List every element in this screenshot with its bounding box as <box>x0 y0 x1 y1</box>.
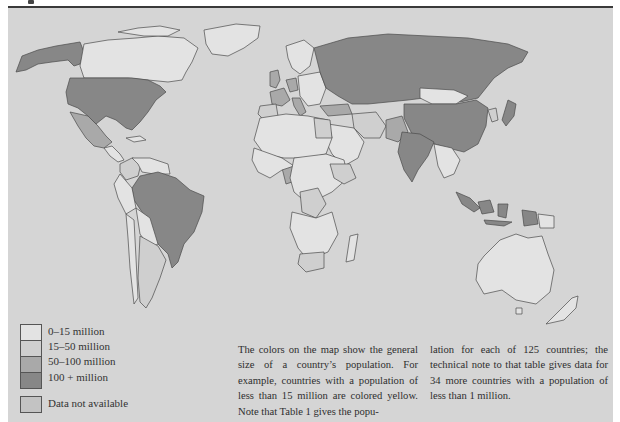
caption-column-1: The colors on the map show the general s… <box>238 342 418 419</box>
region-indonesia <box>456 192 538 226</box>
region-madagascar <box>346 234 358 262</box>
region-caribbean <box>126 136 146 142</box>
region-egypt <box>314 118 332 138</box>
legend-label-na: Data not available <box>48 396 128 411</box>
page-header-fragment <box>28 0 34 4</box>
region-chile <box>126 214 138 304</box>
region-korea <box>488 108 498 122</box>
legend-swatch-15-50 <box>21 341 41 357</box>
legend-label-15-50: 15–50 million <box>48 339 116 354</box>
legend-swatch-100-plus <box>21 373 41 388</box>
legend-swatch-stack <box>20 324 42 389</box>
legend-swatch-na <box>20 396 42 413</box>
region-japan <box>502 100 516 126</box>
region-canada <box>80 36 198 82</box>
region-germany <box>286 78 298 92</box>
caption-column-2: lation for each of 125 countries; the te… <box>430 342 608 404</box>
legend-label-50-100: 50–100 million <box>48 354 116 369</box>
region-peru <box>114 174 136 214</box>
region-alaska <box>16 42 84 72</box>
region-india <box>398 132 434 182</box>
legend-label-100-plus: 100 + million <box>48 370 116 385</box>
region-france <box>270 88 290 106</box>
legend-labels: 0–15 million 15–50 million 50–100 millio… <box>48 324 116 385</box>
region-uk <box>270 70 280 88</box>
region-central-america <box>104 146 124 162</box>
region-new-zealand <box>546 296 578 324</box>
region-australia <box>476 234 554 304</box>
legend-swatch-0-15 <box>21 325 41 341</box>
region-png <box>538 214 554 228</box>
map-panel: 0–15 million 15–50 million 50–100 millio… <box>8 8 613 422</box>
legend-swatch-50-100 <box>21 357 41 373</box>
region-greenland <box>204 24 260 56</box>
region-south-africa <box>298 252 324 272</box>
region-tasmania <box>516 308 522 314</box>
region-scandinavia <box>286 40 314 74</box>
region-canada-islands <box>118 26 180 36</box>
legend-label-0-15: 0–15 million <box>48 324 116 339</box>
region-turkey <box>320 104 352 116</box>
